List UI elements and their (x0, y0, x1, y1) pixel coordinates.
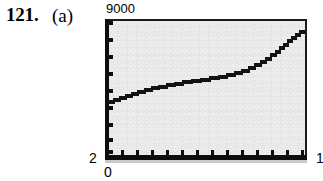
figure-number-label: 121. (6, 3, 38, 27)
panel-letter-label: (a) (52, 4, 73, 28)
y-axis-min-label: 2 (89, 150, 97, 166)
x-axis-max-label: 1 (316, 150, 323, 166)
plot-frame (105, 19, 307, 163)
plot-svg (105, 19, 307, 163)
y-axis-max-label: 9000 (106, 1, 135, 16)
x-axis (105, 155, 307, 163)
x-axis-min-label: 0 (104, 164, 112, 180)
figure-screenshot: 121. (a) 9000 2 0 1 (0, 0, 323, 181)
plot-background (105, 19, 307, 163)
y-axis (105, 19, 109, 163)
